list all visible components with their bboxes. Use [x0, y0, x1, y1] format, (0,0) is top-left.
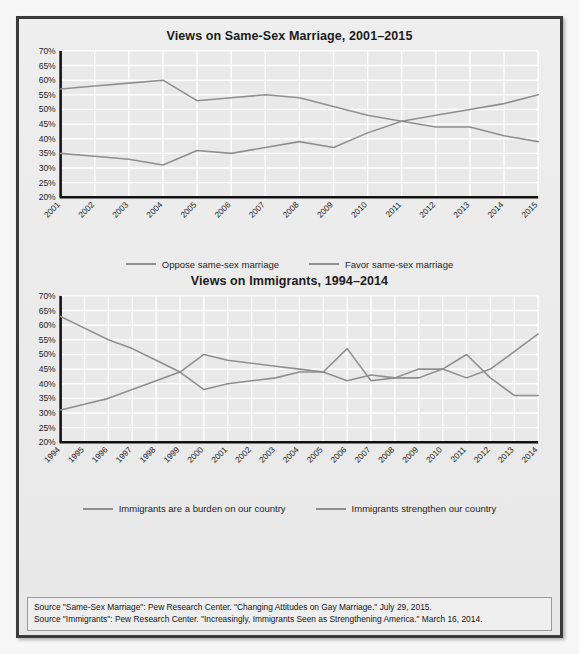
y-axis-tick-label: 55% — [39, 334, 56, 344]
x-axis-tick-label: 2002 — [233, 444, 253, 464]
x-axis-tick-label: 2008 — [281, 199, 301, 219]
x-axis-tick-label: 2005 — [178, 199, 198, 219]
legend-item-oppose: Oppose same-sex marriage — [126, 259, 279, 270]
chart-2-title: Views on Immigrants, 1994–2014 — [27, 274, 552, 288]
y-axis-tick-label: 65% — [39, 61, 56, 71]
legend-label-burden: Immigrants are a burden on our country — [119, 503, 286, 514]
x-axis-tick-label: 2001 — [42, 199, 62, 219]
y-axis-tick-label: 40% — [39, 134, 56, 144]
x-axis-tick-label: 2010 — [424, 444, 444, 464]
x-axis-tick-label: 1995 — [66, 444, 86, 464]
x-axis-tick-label: 2014 — [519, 444, 539, 464]
y-axis-tick-label: 65% — [39, 305, 56, 315]
source-note: Source "Same-Sex Marriage": Pew Research… — [27, 597, 552, 631]
x-axis-tick-label: 2007 — [247, 199, 267, 219]
x-axis-tick-label: 1996 — [90, 444, 110, 464]
x-axis-tick-label: 2009 — [400, 444, 420, 464]
y-axis-tick-label: 50% — [39, 349, 56, 359]
legend-line-icon — [309, 263, 339, 265]
source-line-2: Source "Immigrants": Pew Research Center… — [34, 614, 545, 625]
chart-1-plot: 70%65%60%55%50%45%40%35%30%25%20%2001200… — [27, 45, 552, 261]
x-axis-tick-label: 2001 — [209, 444, 229, 464]
y-axis-tick-label: 35% — [39, 393, 56, 403]
y-axis-tick-label: 60% — [39, 320, 56, 330]
page-canvas: Views on Same-Sex Marriage, 2001–2015 70… — [0, 0, 579, 654]
x-axis-tick-label: 1999 — [161, 444, 181, 464]
chart-1-legend: Oppose same-sex marriage Favor same-sex … — [27, 259, 552, 270]
chart-2-plot: 70%65%60%55%50%45%40%35%30%25%20%1994199… — [27, 290, 552, 506]
y-axis-tick-label: 50% — [39, 104, 56, 114]
x-axis-tick-label: 2005 — [305, 444, 325, 464]
y-axis-tick-label: 45% — [39, 364, 56, 374]
x-axis-tick-label: 2006 — [212, 199, 232, 219]
x-axis-tick-label: 2000 — [185, 444, 205, 464]
chart-immigrants: Views on Immigrants, 1994–2014 70%65%60%… — [27, 270, 552, 515]
y-axis-tick-label: 30% — [39, 407, 56, 417]
legend-label-favor: Favor same-sex marriage — [345, 259, 453, 270]
x-axis-tick-label: 2006 — [328, 444, 348, 464]
x-axis-tick-label: 2008 — [376, 444, 396, 464]
legend-line-icon — [316, 508, 346, 510]
y-axis-tick-label: 30% — [39, 163, 56, 173]
x-axis-tick-label: 1998 — [137, 444, 157, 464]
x-axis-tick-label: 2012 — [472, 444, 492, 464]
x-axis-tick-label: 2012 — [417, 199, 437, 219]
legend-item-favor: Favor same-sex marriage — [309, 259, 453, 270]
x-axis-tick-label: 2004 — [281, 444, 301, 464]
x-axis-tick-label: 2014 — [485, 199, 505, 219]
x-axis-tick-label: 2007 — [352, 444, 372, 464]
y-axis-tick-label: 45% — [39, 119, 56, 129]
legend-label-strengthen: Immigrants strengthen our country — [352, 503, 497, 514]
x-axis-tick-label: 2003 — [257, 444, 277, 464]
y-axis-tick-label: 70% — [39, 290, 56, 300]
y-axis-tick-label: 35% — [39, 148, 56, 158]
legend-label-oppose: Oppose same-sex marriage — [162, 259, 279, 270]
y-axis-tick-label: 70% — [39, 46, 56, 56]
chart-same-sex-marriage: Views on Same-Sex Marriage, 2001–2015 70… — [27, 25, 552, 270]
figure-frame: Views on Same-Sex Marriage, 2001–2015 70… — [16, 16, 563, 638]
legend-line-icon — [126, 263, 156, 265]
x-axis-tick-label: 2013 — [496, 444, 516, 464]
chart-1-title: Views on Same-Sex Marriage, 2001–2015 — [27, 29, 552, 43]
x-axis-tick-label: 1994 — [42, 444, 62, 464]
chart-2-legend: Immigrants are a burden on our country I… — [27, 503, 552, 514]
x-axis-tick-label: 2009 — [315, 199, 335, 219]
x-axis-tick-label: 2004 — [144, 199, 164, 219]
y-axis-tick-label: 60% — [39, 75, 56, 85]
x-axis-tick-label: 2003 — [110, 199, 130, 219]
y-axis-tick-label: 25% — [39, 178, 56, 188]
figure-inner: Views on Same-Sex Marriage, 2001–2015 70… — [19, 19, 560, 635]
y-axis-tick-label: 55% — [39, 90, 56, 100]
y-axis-tick-label: 25% — [39, 422, 56, 432]
legend-line-icon — [83, 508, 113, 510]
x-axis-tick-label: 1997 — [114, 444, 134, 464]
x-axis-tick-label: 2015 — [519, 199, 539, 219]
x-axis-tick-label: 2010 — [349, 199, 369, 219]
x-axis-tick-label: 2013 — [451, 199, 471, 219]
x-axis-tick-label: 2011 — [383, 199, 403, 219]
x-axis-tick-label: 2011 — [448, 444, 468, 464]
legend-item-burden: Immigrants are a burden on our country — [83, 503, 286, 514]
x-axis-tick-label: 2002 — [76, 199, 96, 219]
source-line-1: Source "Same-Sex Marriage": Pew Research… — [34, 602, 545, 613]
legend-item-strengthen: Immigrants strengthen our country — [316, 503, 497, 514]
y-axis-tick-label: 40% — [39, 378, 56, 388]
